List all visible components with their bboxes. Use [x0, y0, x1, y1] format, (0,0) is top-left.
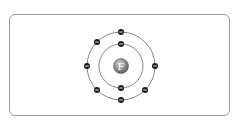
electron [152, 63, 158, 69]
bohr-diagram: F [0, 0, 243, 122]
electron [118, 29, 124, 35]
electron [94, 87, 100, 93]
nucleus-label: F [118, 61, 125, 72]
electron [118, 97, 124, 103]
nucleus: F [114, 59, 129, 74]
electron [84, 63, 90, 69]
electron [94, 39, 100, 45]
electron [118, 41, 124, 47]
electron [142, 87, 148, 93]
electron [118, 85, 124, 91]
